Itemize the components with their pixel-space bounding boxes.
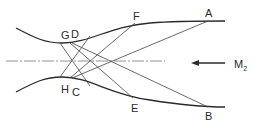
label-d: D <box>71 29 79 40</box>
label-h: H <box>61 84 69 95</box>
flow-arrow-head <box>191 60 199 66</box>
upper-wall <box>16 21 225 43</box>
label-g: G <box>61 30 70 41</box>
wave-line-d-b <box>72 43 208 107</box>
label-mach-number: M2 <box>234 59 247 72</box>
label-b: B <box>205 111 212 122</box>
wave-line-c-a <box>72 21 208 78</box>
label-e: E <box>131 103 138 114</box>
lower-wall <box>16 77 225 107</box>
label-a: A <box>205 8 212 19</box>
label-c: C <box>72 87 80 98</box>
mach-symbol: M <box>234 58 243 70</box>
label-f: F <box>133 11 140 22</box>
mach-subscript: 2 <box>243 65 247 72</box>
